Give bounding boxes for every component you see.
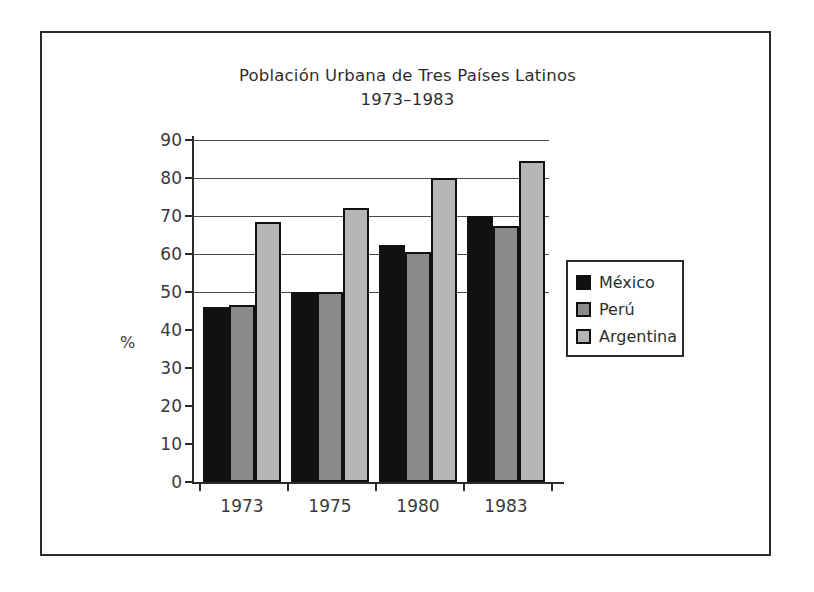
plot-area: 0102030405060708090 1973197519801983 [192,140,549,482]
bar [493,226,519,483]
gridline [192,216,549,217]
bar [343,208,369,482]
y-tick-label: 90 [160,130,182,150]
x-tick-mark [199,482,201,491]
x-tick-mark [463,482,465,491]
bar [203,307,229,482]
y-tick-mark [185,367,193,369]
legend-item: México [576,269,674,296]
bar [467,216,493,482]
chart-title: Población Urbana de Tres Países Latinos … [42,64,773,112]
y-tick-label: 60 [160,244,182,264]
gridline [192,140,549,141]
y-tick-label: 40 [160,320,182,340]
legend-swatch [576,329,591,344]
x-axis-line [192,482,564,484]
y-tick-label: 30 [160,358,182,378]
x-tick-label: 1983 [484,496,527,516]
y-tick-label: 50 [160,282,182,302]
chart-title-line1: Población Urbana de Tres Países Latinos [239,66,576,85]
y-tick-mark [185,481,193,483]
y-tick-mark [185,215,193,217]
y-tick-mark [185,291,193,293]
y-tick-mark [185,177,193,179]
chart-title-line2: 1973–1983 [42,88,773,112]
bar [405,252,431,482]
y-tick-mark [185,329,193,331]
y-tick-label: 80 [160,168,182,188]
y-tick-label: 10 [160,434,182,454]
x-tick-label: 1973 [220,496,263,516]
y-tick-mark [185,139,193,141]
legend-label: México [599,273,655,292]
y-tick-label: 20 [160,396,182,416]
legend-swatch [576,302,591,317]
figure-frame: Población Urbana de Tres Países Latinos … [40,31,771,556]
bar [255,222,281,482]
y-tick-label: 0 [171,472,182,492]
legend: MéxicoPerúArgentina [566,260,684,357]
bar [229,305,255,482]
y-tick-mark [185,443,193,445]
y-tick-mark [185,253,193,255]
x-tick-label: 1980 [396,496,439,516]
legend-label: Perú [599,300,635,319]
chart-page: Población Urbana de Tres Países Latinos … [0,0,814,592]
y-axis-line [192,136,194,484]
x-tick-mark [375,482,377,491]
bar [519,161,545,482]
x-tick-mark [551,482,553,491]
legend-item: Argentina [576,323,674,350]
legend-swatch [576,275,591,290]
legend-label: Argentina [599,327,677,346]
bar [379,245,405,483]
legend-item: Perú [576,296,674,323]
bar [317,292,343,482]
y-axis-title: % [120,333,135,352]
x-tick-mark [287,482,289,491]
y-tick-mark [185,405,193,407]
bar [431,178,457,482]
y-tick-label: 70 [160,206,182,226]
x-tick-label: 1975 [308,496,351,516]
gridline [192,178,549,179]
bar [291,292,317,482]
